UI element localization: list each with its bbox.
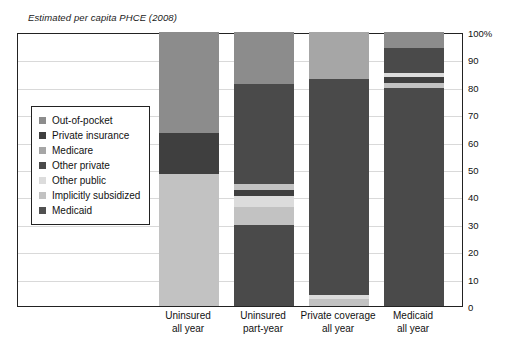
legend-item-medicare[interactable]: Medicare xyxy=(39,143,140,158)
y-tick-label-100: 100% xyxy=(468,28,492,39)
bar-segment[interactable] xyxy=(384,73,444,77)
bar-3[interactable] xyxy=(309,32,369,306)
legend-swatch-icon xyxy=(39,147,46,154)
legend-item-private_insurance[interactable]: Private insurance xyxy=(39,128,140,143)
y-tick-label-90: 90 xyxy=(468,55,479,66)
legend-item-other_private[interactable]: Other private xyxy=(39,158,140,173)
legend-item-label: Implicitly subsidized xyxy=(52,190,140,201)
y-tick-label-60: 60 xyxy=(468,137,479,148)
bar-segment[interactable] xyxy=(309,32,369,79)
legend-swatch-icon xyxy=(39,132,46,139)
bar-segment[interactable] xyxy=(234,225,294,306)
y-tick-label-70: 70 xyxy=(468,110,479,121)
bar-2[interactable] xyxy=(234,32,294,306)
bar-segment[interactable] xyxy=(234,207,294,225)
y-tick-label-80: 80 xyxy=(468,82,479,93)
bar-segment[interactable] xyxy=(309,299,369,306)
y-axis-labels: 100%9080706050403020100 xyxy=(468,33,518,307)
legend-item-label: Medicare xyxy=(52,145,93,156)
y-tick-label-50: 50 xyxy=(468,165,479,176)
y-tick-label-0: 0 xyxy=(468,302,473,313)
x-axis-label-line: Medicaid xyxy=(358,310,468,323)
chart-caption: Estimated per capita PHCE (2008) xyxy=(28,12,177,23)
bar-segment[interactable] xyxy=(384,83,444,88)
y-tick-label-40: 40 xyxy=(468,192,479,203)
bar-segment[interactable] xyxy=(234,32,294,84)
y-tick-label-20: 20 xyxy=(468,247,479,258)
bar-1[interactable] xyxy=(159,32,219,306)
bar-segment[interactable] xyxy=(159,133,219,174)
legend-swatch-icon xyxy=(39,192,46,199)
chart-legend: Out-of-pocketPrivate insuranceMedicareOt… xyxy=(31,106,150,225)
legend-item-label: Other public xyxy=(52,175,106,186)
bar-segment[interactable] xyxy=(384,77,444,82)
bar-segment[interactable] xyxy=(309,295,369,299)
y-tick-label-30: 30 xyxy=(468,219,479,230)
y-tick-label-10: 10 xyxy=(468,274,479,285)
bar-segment[interactable] xyxy=(234,190,294,197)
legend-swatch-icon xyxy=(39,177,46,184)
legend-item-out_of_pocket[interactable]: Out-of-pocket xyxy=(39,113,140,128)
legend-item-label: Other private xyxy=(52,160,110,171)
legend-swatch-icon xyxy=(39,117,46,124)
bar-segment[interactable] xyxy=(384,48,444,73)
bar-segment[interactable] xyxy=(234,184,294,189)
x-axis-label-4: Medicaidall year xyxy=(358,310,468,335)
x-axis-label-line: all year xyxy=(358,323,468,336)
legend-item-other_public[interactable]: Other public xyxy=(39,173,140,188)
legend-item-implicitly_subsidized[interactable]: Implicitly subsidized xyxy=(39,188,140,203)
bar-4[interactable] xyxy=(384,32,444,306)
chart-page: Estimated per capita PHCE (2008) 100%908… xyxy=(0,0,521,350)
legend-swatch-icon xyxy=(39,207,46,214)
legend-item-label: Out-of-pocket xyxy=(52,115,113,126)
bar-segment[interactable] xyxy=(234,196,294,207)
bar-segment[interactable] xyxy=(309,79,369,295)
legend-item-label: Private insurance xyxy=(52,130,129,141)
legend-swatch-icon xyxy=(39,162,46,169)
legend-item-label: Medicaid xyxy=(52,205,92,216)
bar-segment[interactable] xyxy=(384,32,444,48)
legend-item-medicaid[interactable]: Medicaid xyxy=(39,203,140,218)
bar-segment[interactable] xyxy=(384,88,444,306)
bar-segment[interactable] xyxy=(159,32,219,133)
bar-segment[interactable] xyxy=(234,84,294,184)
bar-segment[interactable] xyxy=(159,174,219,306)
